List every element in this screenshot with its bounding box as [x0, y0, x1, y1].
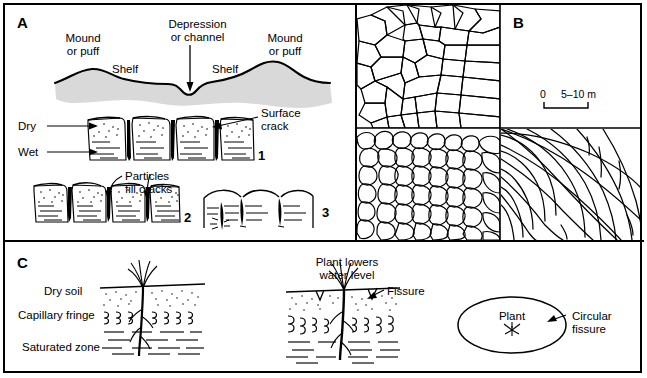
panel-c-plan-view [0, 0, 647, 378]
plant-symbol-icon [504, 322, 520, 336]
figure-root: A Mound or puff Depression or channel Mo… [0, 0, 647, 378]
